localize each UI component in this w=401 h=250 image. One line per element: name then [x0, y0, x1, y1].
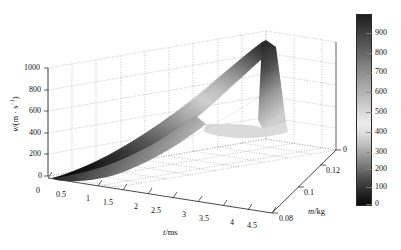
z-axis-title: v/(m · s−1) — [8, 84, 20, 144]
y-axis-front-line — [272, 150, 336, 213]
z-tick-label: 400 — [29, 129, 41, 137]
z-tick-marks — [44, 68, 48, 176]
colorbar-label: 100 — [375, 183, 387, 191]
x-tick-label: 4 — [230, 219, 234, 227]
x-tick-label: 4.5 — [247, 222, 257, 230]
colorbar[interactable] — [356, 14, 372, 206]
colorbar-tick — [366, 92, 372, 93]
colorbar-label: 700 — [375, 68, 387, 76]
surface-plot-svg — [0, 0, 401, 250]
x-axis-title: t/ms — [163, 228, 178, 237]
x-tick-label: 3.5 — [199, 215, 209, 223]
colorbar-label: 800 — [375, 49, 387, 57]
z-tick-label: 0 — [38, 172, 42, 180]
colorbar-label: 200 — [375, 165, 387, 173]
colorbar-label: 400 — [375, 128, 387, 136]
colorbar-label: 500 — [375, 108, 387, 116]
x-tick-label: 0.5 — [56, 191, 66, 199]
z-tick-label: 600 — [29, 107, 41, 115]
x-tick-label: 2.5 — [151, 207, 161, 215]
figure-canvas: 1000 800 600 400 200 0 0 0.5 1 1.5 2 2.5… — [0, 0, 401, 250]
colorbar-label: 600 — [375, 88, 387, 96]
colorbar-tick — [366, 33, 372, 34]
colorbar-gradient — [357, 15, 371, 205]
z-tick-label: 1000 — [24, 64, 40, 72]
colorbar-label: 300 — [375, 148, 387, 156]
colorbar-tick — [366, 187, 372, 188]
surface-right-cliff — [258, 42, 286, 128]
colorbar-tick — [366, 152, 372, 153]
y-tick-label: 0.12 — [326, 167, 340, 175]
y-tick-label: 0.1 — [304, 189, 314, 197]
colorbar-label: 900 — [375, 29, 387, 37]
colorbar-tick — [366, 53, 372, 54]
colorbar-label: 0 — [375, 200, 379, 208]
x-tick-label: 1.5 — [103, 199, 113, 207]
x-tick-label: 3 — [182, 211, 186, 219]
colorbar-tick — [366, 72, 372, 73]
colorbar-tick — [366, 132, 372, 133]
colorbar-tick — [366, 112, 372, 113]
colorbar-tick — [366, 204, 372, 205]
y-axis-title: m/kg — [308, 207, 325, 216]
z-tick-label: 200 — [29, 150, 41, 158]
y-tick-label: 0.08 — [279, 215, 293, 223]
x-tick-label: 1 — [86, 195, 90, 203]
x-tick-label: 0 — [36, 187, 40, 195]
colorbar-tick — [366, 169, 372, 170]
x-tick-label: 2 — [134, 203, 138, 211]
right-axis-tick-label: 0 — [343, 146, 347, 154]
z-tick-label: 800 — [29, 86, 41, 94]
